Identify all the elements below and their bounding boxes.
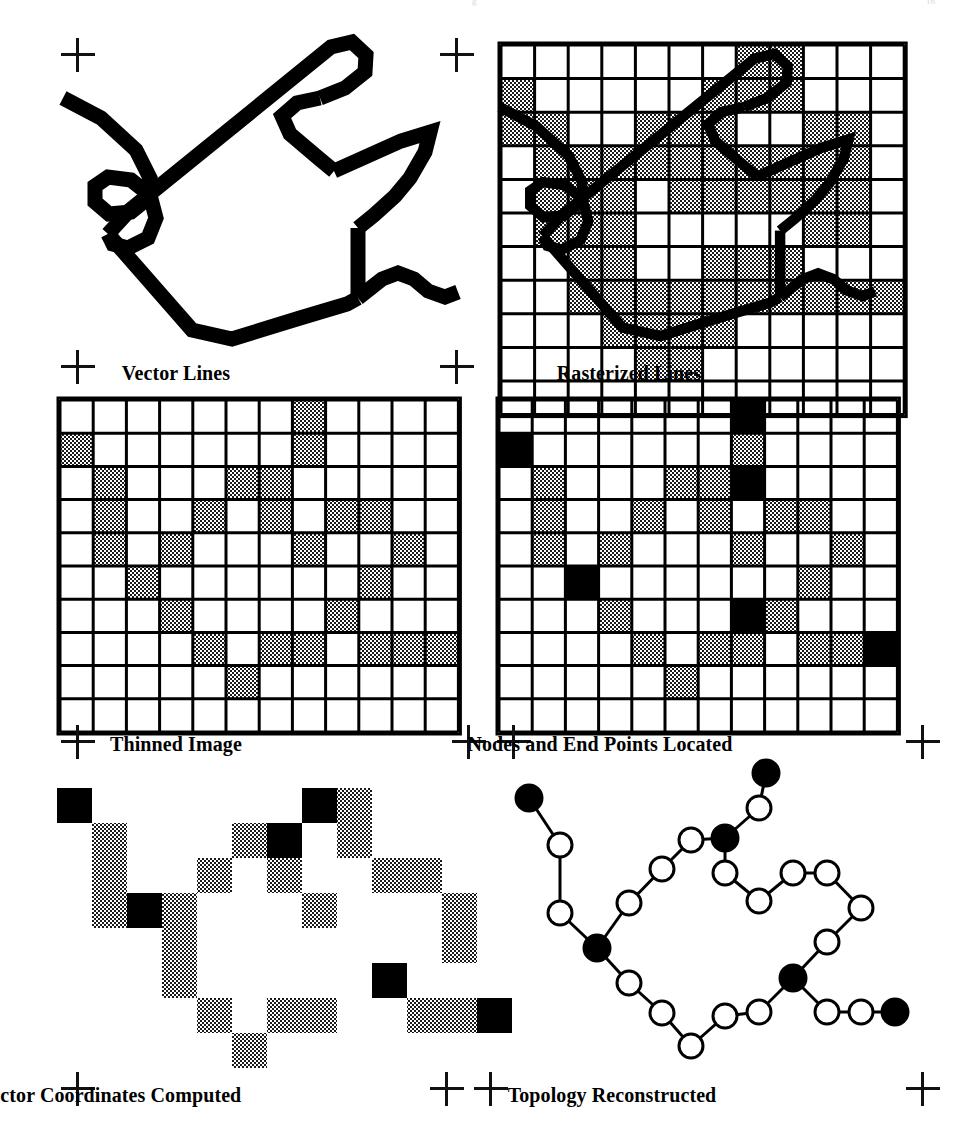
- topology-vertex-o10: [815, 930, 839, 954]
- shaded-cell-6-3: [160, 599, 193, 632]
- shaded-cell-2-6: [259, 466, 292, 499]
- panel-vector-coordinates: [57, 788, 512, 1068]
- solid-cell-5-2: [565, 566, 598, 599]
- label-nodes-endpoints: Nodes and End Points Located: [467, 733, 732, 756]
- topology-vertex-o7: [747, 1000, 771, 1024]
- topology-endpoint-e3: [753, 760, 779, 786]
- shaded-cell-7-4: [632, 632, 665, 665]
- shaded-cell-6-8: [770, 247, 804, 281]
- topology-vertex-o12: [815, 861, 839, 885]
- solid-cell-1-0: [499, 433, 532, 466]
- shaded-cell-4-3: [599, 533, 632, 566]
- shaded-cell-6-11: [442, 998, 477, 1033]
- shaded-cell-7-7: [731, 632, 764, 665]
- solid-cell-0-7: [731, 400, 764, 433]
- registration-mark-8: [906, 725, 940, 759]
- topology-vertex-o13: [781, 861, 805, 885]
- label-vector-lines: Vector Lines: [122, 362, 230, 385]
- shaded-cell-4-5: [669, 179, 703, 213]
- topology-vertex-o9: [849, 1000, 873, 1024]
- shaded-cell-6-7: [302, 998, 337, 1033]
- shaded-cell-5-3: [162, 963, 197, 998]
- registration-mark-3: [61, 350, 95, 384]
- shaded-cell-5-9: [359, 566, 392, 599]
- shaded-cell-7-5: [669, 280, 703, 314]
- solid-cell-0-0: [57, 788, 92, 823]
- registration-mark-1: [61, 38, 95, 72]
- figure-artwork: [0, 0, 959, 1137]
- topology-vertex-o16: [747, 796, 771, 820]
- topology-vertex-o11: [849, 896, 873, 920]
- shaded-cell-6-6: [267, 998, 302, 1033]
- shaded-cell-3-6: [259, 500, 292, 533]
- shaded-cell-2-1: [532, 466, 565, 499]
- vector-line-5: [334, 132, 430, 228]
- shaded-cell-3-9: [359, 500, 392, 533]
- shaded-cell-7-5: [232, 1033, 267, 1068]
- shaded-cell-1-7: [731, 433, 764, 466]
- shaded-cell-2-1: [92, 858, 127, 893]
- topology-vertex-o14: [747, 889, 771, 913]
- shaded-cell-2-1: [93, 466, 126, 499]
- panel-nodes-endpoints: [497, 398, 899, 734]
- vector-line-7: [358, 273, 458, 298]
- shaded-cell-7-6: [259, 632, 292, 665]
- vector-line-2: [108, 234, 358, 339]
- registration-mark-2: [440, 38, 474, 72]
- solid-cell-6-7: [731, 599, 764, 632]
- shaded-cell-7-9: [803, 280, 837, 314]
- shaded-cell-7-4: [635, 280, 669, 314]
- figure-raster-to-vector: g 16 Vector Lines Rasterized Lines: [0, 0, 959, 1137]
- shaded-cell-4-1: [93, 533, 126, 566]
- shaded-cell-3-1: [92, 893, 127, 928]
- topology-endpoint-e1: [516, 785, 542, 811]
- shaded-cell-1-7: [292, 433, 325, 466]
- shaded-cell-2-9: [372, 858, 407, 893]
- shaded-cell-1-8: [337, 823, 372, 858]
- shaded-cell-5-9: [803, 213, 837, 247]
- label-vector-coords: Vector Coordinates Computed: [0, 1084, 241, 1107]
- shaded-cell-4-3: [160, 533, 193, 566]
- label-thinned-image: Thinned Image: [110, 733, 242, 756]
- shaded-cell-8-5: [226, 666, 259, 699]
- shaded-cell-4-10: [392, 533, 425, 566]
- registration-mark-11: [474, 1072, 508, 1106]
- shaded-cell-3-1: [532, 500, 565, 533]
- shaded-cell-7-6: [703, 280, 737, 314]
- topology-vertex-o4: [650, 1001, 674, 1025]
- shaded-cell-2-5: [226, 466, 259, 499]
- shaded-cell-6-8: [765, 599, 798, 632]
- shaded-cell-0-8: [337, 788, 372, 823]
- shaded-cell-4-7: [736, 179, 770, 213]
- vector-line-4: [282, 98, 334, 171]
- shaded-cell-4-10: [837, 179, 871, 213]
- shaded-cell-3-4: [632, 500, 665, 533]
- shaded-cell-4-7: [292, 533, 325, 566]
- panel-topology: [516, 760, 908, 1058]
- shaded-cell-4-8: [770, 179, 804, 213]
- topology-vertex-o2: [548, 901, 572, 925]
- solid-cell-1-6: [267, 823, 302, 858]
- topology-node-n2: [780, 965, 806, 991]
- shaded-cell-3-9: [798, 500, 831, 533]
- topology-node-n3: [712, 825, 738, 851]
- panel-vector-lines: [63, 42, 458, 339]
- solid-cell-7-11: [864, 632, 897, 665]
- shaded-cell-2-6: [267, 858, 302, 893]
- shaded-cell-3-3: [162, 893, 197, 928]
- topology-endpoint-e2: [882, 999, 908, 1025]
- shaded-cell-7-7: [292, 632, 325, 665]
- shaded-cell-3-7: [302, 893, 337, 928]
- shaded-cell-3-8: [326, 500, 359, 533]
- shaded-cell-4-6: [703, 179, 737, 213]
- shaded-cell-7-9: [798, 632, 831, 665]
- solid-cell-0-7: [302, 788, 337, 823]
- shaded-cell-4-10: [831, 533, 864, 566]
- shaded-cell-5-2: [126, 566, 159, 599]
- shaded-cell-8-5: [665, 666, 698, 699]
- topology-vertex-o6: [713, 1004, 737, 1028]
- topology-vertex-o5: [679, 1034, 703, 1058]
- shaded-cell-2-10: [407, 858, 442, 893]
- topology-vertex-o3: [617, 971, 641, 995]
- topology-vertex-o19: [617, 891, 641, 915]
